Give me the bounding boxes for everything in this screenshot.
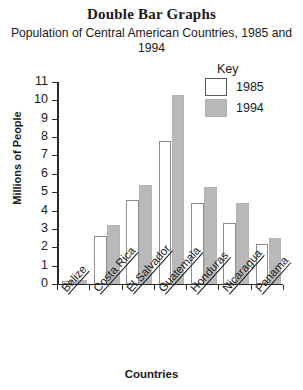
chart-subtitle: Population of Central American Countries… [0,26,303,56]
y-tick: 2 [52,247,57,248]
y-tick-label: 10 [26,92,48,106]
y-tick-label: 1 [26,258,48,272]
y-tick: 6 [52,174,57,175]
y-tick: 11 [52,82,57,83]
y-tick-label: 3 [26,221,48,235]
y-tick: 9 [52,119,57,120]
y-tick-label: 11 [26,74,48,88]
x-axis-label: Countries [0,368,303,380]
y-axis-label: Millions of People [11,98,23,218]
y-tick-label: 6 [26,166,48,180]
category-label-group: BelizeCosta RicaEl SalvadorGuatemalaHond… [57,286,303,368]
y-tick-label: 4 [26,203,48,217]
y-tick: 8 [52,137,57,138]
y-tick: 1 [52,266,57,267]
y-axis [57,82,59,285]
y-tick: 3 [52,229,57,230]
chart-page: Double Bar Graphs Population of Central … [0,0,303,390]
chart-title: Double Bar Graphs [0,6,303,23]
y-tick-label: 8 [26,129,48,143]
y-tick: 5 [52,192,57,193]
y-tick-label: 5 [26,184,48,198]
legend-title: Key [205,62,297,76]
y-tick-label: 0 [26,276,48,290]
y-tick: 4 [52,211,57,212]
y-tick-label: 7 [26,147,48,161]
y-tick-label: 9 [26,111,48,125]
y-tick: 7 [52,155,57,156]
y-tick-label: 2 [26,239,48,253]
y-tick: 10 [52,100,57,101]
